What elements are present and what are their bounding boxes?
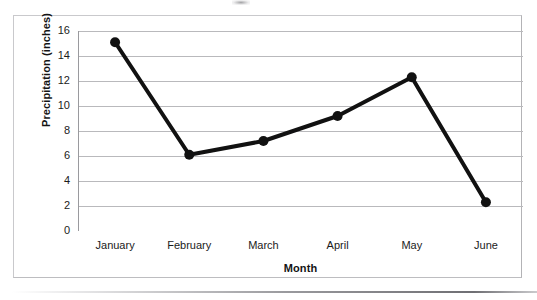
data-point-marker bbox=[481, 197, 491, 207]
x-axis-tick-label: April bbox=[301, 238, 375, 256]
y-axis-tick-label: 4 bbox=[48, 175, 70, 186]
line-chart: Precipitation (inches) 0246810121416 Jan… bbox=[13, 15, 522, 278]
x-axis-tick-label: June bbox=[449, 238, 523, 256]
y-axis-tick-label: 0 bbox=[48, 225, 70, 236]
data-line-precipitation bbox=[115, 42, 486, 202]
y-axis-tick-label: 14 bbox=[48, 50, 70, 61]
data-point-marker bbox=[110, 37, 120, 47]
y-axis-tick-label: 2 bbox=[48, 200, 70, 211]
scan-artifact-top bbox=[232, 0, 250, 5]
x-axis-tick-label: February bbox=[152, 238, 226, 256]
y-axis-tick-label: 10 bbox=[48, 100, 70, 111]
x-axis-tick-label: May bbox=[375, 238, 449, 256]
plot-area bbox=[78, 31, 523, 231]
y-axis-tick-label: 12 bbox=[48, 75, 70, 86]
data-point-marker bbox=[407, 72, 417, 82]
data-point-marker bbox=[258, 136, 268, 146]
x-axis-tick-label: March bbox=[226, 238, 300, 256]
y-axis-tick-labels: 0246810121416 bbox=[44, 31, 70, 231]
x-axis-tick-labels: JanuaryFebruaryMarchAprilMayJune bbox=[78, 238, 523, 256]
y-axis-tick-label: 8 bbox=[48, 125, 70, 136]
y-axis-tick-label: 6 bbox=[48, 150, 70, 161]
plot-svg bbox=[78, 31, 523, 231]
x-axis-title: Month bbox=[78, 262, 523, 274]
data-point-marker bbox=[184, 150, 194, 160]
y-axis-tick-label: 16 bbox=[48, 25, 70, 36]
data-point-marker bbox=[333, 111, 343, 121]
scan-artifact-bottom-rule bbox=[12, 291, 537, 293]
x-axis-tick-label: January bbox=[78, 238, 152, 256]
